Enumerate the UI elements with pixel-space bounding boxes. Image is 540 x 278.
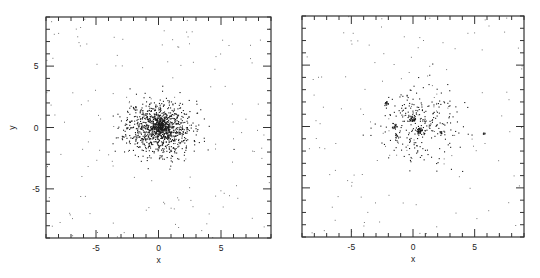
x-axis-label: x [411, 254, 416, 264]
left-scatter-panel: -505-505xy [7, 17, 271, 265]
data-points [307, 16, 523, 236]
x-tick-label: 5 [472, 242, 477, 252]
y-tick-label: 5 [34, 61, 39, 71]
data-points [46, 19, 271, 238]
x-tick-label: 0 [411, 242, 416, 252]
plot-frame [302, 16, 524, 237]
y-tick-label: -5 [32, 184, 40, 194]
right-scatter-panel: -505x [302, 16, 524, 264]
x-axis-label: x [156, 255, 161, 265]
y-axis-label: y [7, 125, 17, 130]
x-tick-label: -5 [348, 242, 356, 252]
scatter-figure: -505-505xy -505x [0, 0, 540, 278]
x-tick-label: -5 [92, 243, 100, 253]
x-tick-label: 5 [219, 243, 224, 253]
axis-ticks [302, 16, 524, 237]
x-tick-label: 0 [156, 243, 161, 253]
y-tick-label: 0 [34, 123, 39, 133]
